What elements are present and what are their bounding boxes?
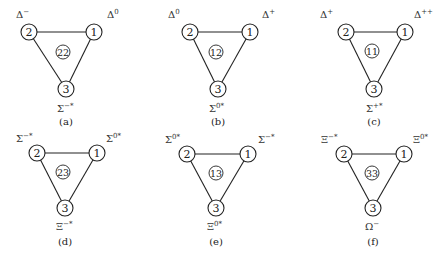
bottom-particle: Ω− bbox=[365, 220, 379, 232]
svg-text:1: 1 bbox=[94, 147, 101, 160]
center-label: 23 bbox=[57, 167, 69, 178]
panel-b: 2 1 3 12 Δ0 Δ+ Σ0* (b) bbox=[168, 8, 275, 127]
panel-e: 2 1 3 13 Σ0* Σ−* Ξ0* (e) bbox=[165, 133, 275, 247]
top-right-particle: Δ0 bbox=[107, 8, 119, 20]
svg-text:2: 2 bbox=[26, 26, 33, 39]
panel-caption: (b) bbox=[211, 116, 225, 127]
svg-text:3: 3 bbox=[215, 83, 222, 96]
center-label: 22 bbox=[57, 47, 69, 58]
svg-text:3: 3 bbox=[370, 202, 377, 215]
svg-text:1: 1 bbox=[401, 148, 408, 161]
bottom-particle: Ξ0* bbox=[207, 220, 223, 232]
top-right-particle: Σ0* bbox=[106, 132, 122, 144]
panel-caption: (a) bbox=[59, 116, 73, 127]
top-left-particle: Σ0* bbox=[165, 133, 181, 145]
top-right-particle: Ξ0* bbox=[413, 133, 429, 145]
top-right-particle: Σ−* bbox=[258, 133, 275, 145]
bottom-particle: Σ−* bbox=[57, 102, 74, 114]
panel-caption: (f) bbox=[367, 236, 379, 247]
top-left-particle: Δ+ bbox=[320, 8, 333, 20]
top-left-particle: Σ−* bbox=[16, 132, 33, 144]
bottom-particle: Ξ−* bbox=[56, 220, 73, 232]
triangle-diagrams-figure: 2 1 3 22 Δ− Δ0 Σ−* (a) 2 1 3 12 Δ0 Δ+ Σ0… bbox=[0, 0, 442, 257]
svg-text:2: 2 bbox=[341, 148, 348, 161]
top-left-particle: Δ0 bbox=[168, 8, 180, 20]
top-right-particle: Δ+ bbox=[262, 8, 275, 20]
panel-caption: (c) bbox=[367, 116, 381, 127]
center-label: 12 bbox=[210, 47, 222, 58]
svg-text:2: 2 bbox=[184, 148, 191, 161]
panel-caption: (d) bbox=[58, 236, 72, 247]
svg-text:3: 3 bbox=[63, 83, 70, 96]
bottom-particle: Σ0* bbox=[209, 102, 225, 114]
svg-text:1: 1 bbox=[402, 26, 409, 39]
panel-d: 2 1 3 23 Σ−* Σ0* Ξ−* (d) bbox=[16, 132, 122, 247]
svg-text:1: 1 bbox=[245, 148, 252, 161]
top-left-particle: Ξ−* bbox=[321, 133, 338, 145]
bottom-particle: Σ+* bbox=[366, 102, 383, 114]
svg-text:1: 1 bbox=[247, 26, 254, 39]
top-left-particle: Δ− bbox=[16, 8, 29, 20]
center-label: 33 bbox=[366, 168, 378, 179]
center-label: 13 bbox=[210, 168, 222, 179]
svg-text:2: 2 bbox=[34, 147, 41, 160]
svg-text:3: 3 bbox=[213, 202, 220, 215]
panel-c: 2 1 3 11 Δ+ Δ++ Σ+* (c) bbox=[320, 8, 433, 127]
top-right-particle: Δ++ bbox=[414, 8, 433, 20]
panel-a: 2 1 3 22 Δ− Δ0 Σ−* (a) bbox=[16, 8, 119, 127]
panel-f: 2 1 3 33 Ξ−* Ξ0* Ω− (f) bbox=[321, 133, 429, 247]
svg-text:2: 2 bbox=[343, 26, 350, 39]
svg-text:3: 3 bbox=[371, 83, 378, 96]
center-label: 11 bbox=[366, 46, 378, 57]
panel-caption: (e) bbox=[209, 236, 223, 247]
svg-text:2: 2 bbox=[187, 26, 194, 39]
svg-text:1: 1 bbox=[91, 26, 98, 39]
svg-text:3: 3 bbox=[62, 202, 69, 215]
